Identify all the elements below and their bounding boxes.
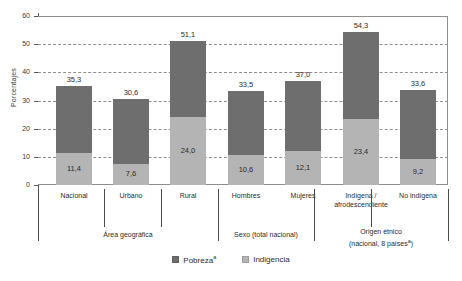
group-separator-1 — [38, 189, 39, 241]
bar-1: 11,4 — [56, 86, 92, 185]
y-tick-label-10: 10 — [0, 153, 38, 160]
group-label-3: Origen étnico(nacional, 8 paísesa) — [321, 228, 441, 248]
chart-container: 6050403020100 Porcentajes 11,435,37,630,… — [0, 0, 462, 281]
bar-total-value-6: 54,3 — [338, 21, 384, 30]
group-label-1: Área geográfica — [68, 231, 188, 240]
y-tick-label-30: 30 — [0, 97, 38, 104]
group-separator-3 — [161, 189, 162, 227]
bar-total-value-3: 51,1 — [165, 30, 211, 39]
group-label-line1-1: Área geográfica — [68, 231, 188, 240]
bar-indigencia-value-2: 7,6 — [113, 169, 149, 178]
group-label-superscript-3: a — [408, 238, 411, 244]
legend-item-1[interactable]: Pobrezaa — [172, 254, 216, 265]
group-separator-7 — [448, 189, 449, 241]
legend-swatch-icon-2 — [242, 256, 249, 263]
group-label-line1-2: Sexo (total nacional) — [206, 231, 326, 240]
y-tick-label-60: 60 — [0, 12, 38, 19]
y-tick-label-20: 20 — [0, 125, 38, 132]
bar-2: 7,6 — [113, 99, 149, 185]
y-tick-label-0: 0 — [0, 181, 38, 188]
bar-4: 10,6 — [228, 91, 264, 185]
group-label-line1-3: Origen étnico — [321, 228, 441, 237]
bar-indigencia-value-4: 10,6 — [228, 165, 264, 174]
gridline-50 — [38, 44, 448, 45]
bar-segment-pobreza-3 — [170, 41, 206, 117]
bar-segment-pobreza-7 — [400, 90, 436, 159]
gridline-40 — [38, 72, 448, 73]
legend-label-1: Pobrezaa — [183, 254, 216, 265]
legend-swatch-icon-1 — [172, 256, 179, 263]
bar-segment-pobreza-5 — [285, 81, 321, 151]
category-label-line1-7: No indígena — [381, 192, 455, 201]
y-axis-title: Porcentajes — [10, 53, 17, 123]
bar-segment-pobreza-1 — [56, 86, 92, 153]
legend-item-2[interactable]: Indigencia — [242, 255, 289, 264]
bar-segment-pobreza-4 — [228, 91, 264, 156]
bar-segment-pobreza-2 — [113, 99, 149, 164]
bar-7: 9,2 — [400, 90, 436, 185]
category-label-line2-6: afrodescendiente — [324, 201, 398, 210]
group-label-line2-3: (nacional, 8 paísesa) — [321, 237, 441, 249]
bar-indigencia-value-5: 12,1 — [285, 163, 321, 172]
bar-segment-pobreza-6 — [343, 32, 379, 119]
category-label-7: No indígena — [381, 192, 455, 201]
legend-label-superscript-1: a — [213, 254, 216, 260]
bar-total-value-4: 33,5 — [223, 80, 269, 89]
legend-label-2: Indigencia — [253, 255, 289, 264]
chart-legend: PobrezaaIndigencia — [0, 254, 462, 265]
bar-total-value-7: 33,6 — [395, 79, 441, 88]
bar-6: 23,4 — [343, 32, 379, 185]
bar-5: 12,1 — [285, 81, 321, 185]
group-separator-2 — [104, 189, 105, 227]
group-label-2: Sexo (total nacional) — [206, 231, 326, 240]
group-separator-6 — [371, 189, 372, 227]
bar-total-value-2: 30,6 — [108, 88, 154, 97]
bar-indigencia-value-6: 23,4 — [343, 147, 379, 156]
bar-total-value-5: 37,0 — [280, 70, 326, 79]
bar-total-value-1: 35,3 — [51, 75, 97, 84]
bar-indigencia-value-3: 24,0 — [170, 146, 206, 155]
bar-3: 24,0 — [170, 41, 206, 185]
bar-indigencia-value-7: 9,2 — [400, 167, 436, 176]
y-tick-label-50: 50 — [0, 40, 38, 47]
y-tick-label-40: 40 — [0, 68, 38, 75]
bar-indigencia-value-1: 11,4 — [56, 164, 92, 173]
